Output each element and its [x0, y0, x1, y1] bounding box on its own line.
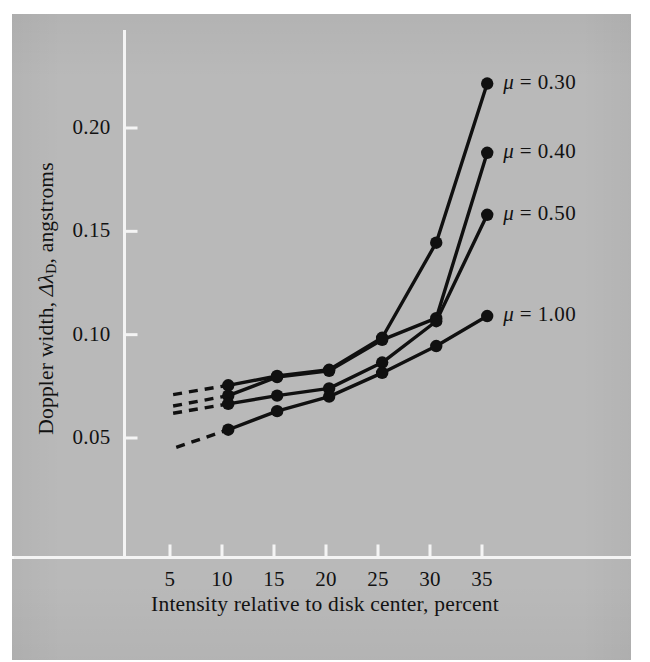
chart-series-layer: [173, 77, 493, 447]
series-label-mu-040: μ = 0.40: [503, 139, 576, 164]
series-data-point: [481, 209, 493, 221]
x-tick-label: 30: [407, 567, 453, 592]
y-axis-title-subscript: D: [44, 264, 59, 274]
series-data-point: [222, 424, 234, 436]
series-data-point: [376, 367, 388, 379]
series-data-point: [481, 310, 493, 322]
series-label-mu-100: μ = 1.00: [503, 302, 576, 327]
x-tick-label: 20: [303, 567, 349, 592]
chart-axes: [14, 30, 630, 558]
y-axis-title: Doppler width, ΔλD, angstroms: [34, 68, 61, 528]
x-tick-label: 35: [459, 567, 505, 592]
y-axis-title-prefix: Doppler width,: [34, 296, 58, 435]
series-data-point: [376, 334, 388, 346]
figure-root: 0.05 0.10 0.15 0.20 5 10 15 20 25 30 35 …: [0, 0, 650, 662]
series-line: [228, 153, 487, 396]
x-tick-label: 10: [199, 567, 245, 592]
series-label-mu-030: μ = 0.30: [503, 70, 576, 95]
x-tick-label: 15: [251, 567, 297, 592]
series-label-mu-050: μ = 0.50: [503, 201, 576, 226]
series-data-point: [323, 365, 335, 377]
series-data-point: [271, 389, 283, 401]
series-data-point: [271, 371, 283, 383]
series-data-point: [481, 77, 493, 89]
series-data-point: [430, 315, 442, 327]
series-extrapolation: [173, 396, 228, 406]
series-data-point: [430, 340, 442, 352]
y-axis-title-symbol: Δλ: [34, 274, 58, 296]
chart-tick-marks: [125, 128, 483, 558]
y-axis-title-suffix: , angstroms: [34, 162, 58, 263]
x-axis-title: Intensity relative to disk center, perce…: [0, 592, 650, 617]
series-data-point: [222, 398, 234, 410]
series-extrapolation: [173, 385, 228, 394]
series-extrapolation: [176, 430, 228, 448]
x-tick-label: 5: [147, 567, 193, 592]
series-line: [228, 215, 487, 404]
series-data-point: [323, 390, 335, 402]
series-data-point: [271, 405, 283, 417]
series-data-point: [430, 237, 442, 249]
series-data-point: [481, 147, 493, 159]
x-tick-label: 25: [355, 567, 401, 592]
